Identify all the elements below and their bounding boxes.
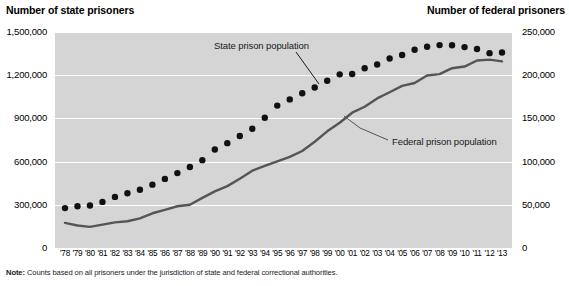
- right-axis-title: Number of federal prisoners: [427, 4, 565, 16]
- left-axis-tick: 1,500,000: [7, 26, 51, 37]
- series-marker-state: [199, 157, 205, 163]
- series-marker-state: [486, 50, 492, 56]
- left-axis-tick: 1,200,000: [7, 69, 51, 80]
- x-axis-tick: '95: [272, 249, 282, 258]
- series-marker-state: [474, 46, 480, 52]
- series-marker-state: [87, 202, 93, 208]
- x-axis-tick: '08: [435, 249, 445, 258]
- x-axis-tick: '92: [235, 249, 245, 258]
- right-axis-tick-labels: 050,000100,000150,000200,000250,000: [517, 32, 569, 248]
- x-axis-tick: '98: [310, 249, 320, 258]
- x-axis-tick: '82: [110, 249, 120, 258]
- left-axis-tick: 300,000: [14, 199, 51, 210]
- right-axis-tick: 100,000: [517, 156, 555, 167]
- right-axis-tick: 250,000: [517, 26, 555, 37]
- x-axis-tick: '99: [322, 249, 332, 258]
- x-axis-tick: '86: [160, 249, 170, 258]
- x-axis-tick: '13: [497, 249, 507, 258]
- series-marker-state: [224, 140, 230, 146]
- series-marker-state: [461, 44, 467, 50]
- chart-root: Number of state prisoners Number of fede…: [0, 0, 569, 286]
- x-axis-tick: '89: [197, 249, 207, 258]
- x-axis-tick: '12: [485, 249, 495, 258]
- series-marker-state: [449, 42, 455, 48]
- series-marker-state: [62, 205, 68, 211]
- x-axis-tick: '04: [385, 249, 395, 258]
- series-marker-state: [312, 84, 318, 90]
- series-marker-state: [187, 164, 193, 170]
- series-marker-state: [287, 96, 293, 102]
- x-axis-tick: '88: [185, 249, 195, 258]
- series-marker-state: [386, 55, 392, 61]
- x-axis-tick: '96: [285, 249, 295, 258]
- series-marker-state: [424, 43, 430, 49]
- x-axis-tick: '93: [247, 249, 257, 258]
- x-axis-tick: '02: [360, 249, 370, 258]
- x-axis-tick: '00: [335, 249, 345, 258]
- x-axis-tick: '07: [422, 249, 432, 258]
- x-axis-tick: '97: [297, 249, 307, 258]
- x-axis-tick: '83: [123, 249, 133, 258]
- series-marker-state: [361, 65, 367, 71]
- x-axis-tick-labels: '78'79'80'81'82'83'84'85'86'87'88'89'90'…: [55, 249, 512, 263]
- x-axis-tick: '06: [410, 249, 420, 258]
- x-axis-tick: '94: [260, 249, 270, 258]
- series-marker-state: [249, 126, 255, 132]
- series-marker-state: [112, 194, 118, 200]
- x-axis-tick: '80: [85, 249, 95, 258]
- x-axis-tick: '01: [347, 249, 357, 258]
- x-axis-tick: '84: [135, 249, 145, 258]
- note-text: Counts based on all prisoners under the …: [25, 268, 338, 277]
- series-marker-state: [411, 47, 417, 53]
- x-axis-tick: '87: [172, 249, 182, 258]
- series-marker-state: [274, 102, 280, 108]
- right-axis-tick: 50,000: [517, 199, 550, 210]
- left-axis-title: Number of state prisoners: [6, 4, 134, 16]
- x-axis-tick: '79: [73, 249, 83, 258]
- x-axis-tick: '91: [222, 249, 232, 258]
- x-axis-tick: '05: [397, 249, 407, 258]
- x-axis-tick: '81: [98, 249, 108, 258]
- x-axis-tick: '03: [372, 249, 382, 258]
- series-marker-state: [149, 181, 155, 187]
- series-marker-state: [174, 170, 180, 176]
- series-marker-state: [349, 71, 355, 77]
- series-marker-state: [399, 52, 405, 58]
- note-label: Note:: [6, 268, 25, 277]
- left-axis-tick: 600,000: [14, 156, 51, 167]
- right-axis-tick: 150,000: [517, 112, 555, 123]
- right-axis-tick: 200,000: [517, 69, 555, 80]
- x-axis-tick: '90: [210, 249, 220, 258]
- x-axis-tick: '11: [472, 249, 481, 258]
- series-marker-state: [74, 203, 80, 209]
- x-axis-tick: '85: [148, 249, 158, 258]
- series-marker-state: [262, 115, 268, 121]
- series-marker-state: [237, 133, 243, 139]
- x-axis-tick: '10: [460, 249, 470, 258]
- series-marker-state: [124, 190, 130, 196]
- left-axis-tick: 900,000: [14, 112, 51, 123]
- annotation-state-prison-population: State prison population: [214, 40, 309, 51]
- series-marker-state: [499, 49, 505, 55]
- series-marker-state: [212, 146, 218, 152]
- x-axis-tick: '78: [60, 249, 70, 258]
- series-marker-state: [99, 199, 105, 205]
- right-axis-tick: 0: [517, 242, 527, 253]
- annotation-federal-prison-population: Federal prison population: [392, 136, 497, 147]
- left-axis-tick-labels: 0300,000600,000900,0001,200,0001,500,000: [0, 32, 51, 248]
- x-axis-tick: '09: [447, 249, 457, 258]
- series-marker-state: [324, 78, 330, 84]
- series-marker-state: [137, 187, 143, 193]
- series-marker-state: [436, 42, 442, 48]
- series-marker-state: [299, 90, 305, 96]
- series-marker-state: [374, 61, 380, 67]
- left-axis-tick: 0: [42, 242, 51, 253]
- series-marker-state: [162, 176, 168, 182]
- series-marker-state: [336, 71, 342, 77]
- chart-note: Note: Counts based on all prisoners unde…: [6, 268, 337, 277]
